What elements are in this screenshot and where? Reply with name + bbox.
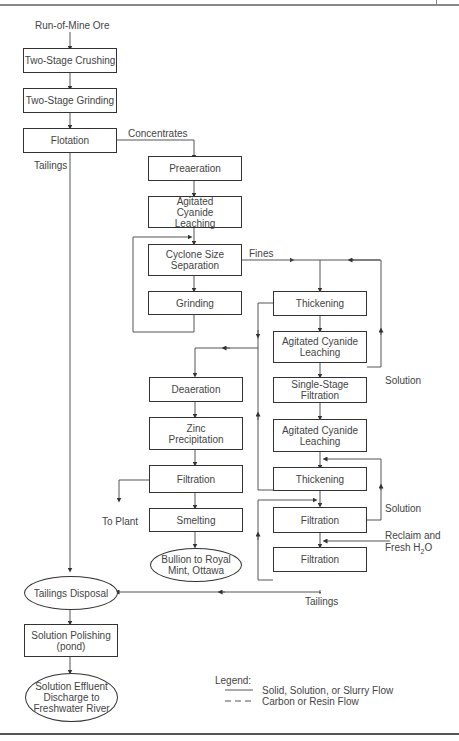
node-preaeration: Preaeration [148, 156, 242, 181]
node-label: Preaeration [169, 163, 221, 174]
node-label: Agitated Cyanide Leaching [160, 196, 230, 229]
node-filtration-c: Filtration [149, 465, 243, 493]
node-flotation: Flotation [23, 128, 117, 153]
node-label: Agitated Cyanide Leaching [280, 425, 360, 447]
edge-label-to-plant: To Plant [102, 516, 138, 527]
node-label: Filtration [301, 554, 339, 565]
node-tailings-disposal: Tailings Disposal [24, 576, 118, 610]
node-label: Deaeration [172, 384, 221, 395]
legend-dashed-flow: Carbon or Resin Flow [262, 696, 359, 707]
node-deaeration: Deaeration [149, 377, 243, 402]
node-agitated-cyanide-leaching-2: Agitated Cyanide Leaching [273, 331, 367, 363]
edge-label-concentrates: Concentrates [128, 128, 187, 139]
edge-label-tailings-final: Tailings [305, 596, 338, 607]
node-grinding: Grinding [148, 291, 242, 315]
node-label: Thickening [296, 474, 344, 485]
node-label: Cyclone Size Separation [165, 249, 225, 271]
node-label: Smelting [177, 515, 216, 526]
node-agitated-cyanide-leaching-1: Agitated Cyanide Leaching [148, 196, 242, 228]
node-agitated-cyanide-leaching-3: Agitated Cyanide Leaching [273, 419, 367, 452]
node-label: Zinc Precipitation [166, 423, 226, 445]
node-label: Grinding [176, 298, 214, 309]
node-two-stage-crushing: Two-Stage Crushing [23, 48, 117, 73]
node-label: Thickening [296, 298, 344, 309]
legend-title: Legend: [215, 675, 251, 686]
node-bullion-to-royal-mint: Bullion to Royal Mint, Ottawa [150, 548, 242, 582]
node-solution-effluent-discharge: Solution Effluent Discharge to Freshwate… [25, 673, 118, 722]
node-cyclone-size-separation: Cyclone Size Separation [148, 244, 242, 276]
node-zinc-precipitation: Zinc Precipitation [149, 417, 243, 450]
node-label: Agitated Cyanide Leaching [280, 336, 360, 358]
reclaim-o: O [424, 542, 432, 553]
node-label: Two-Stage Grinding [26, 95, 114, 106]
node-solution-polishing: Solution Polishing (pond) [24, 624, 118, 657]
node-label: Flotation [51, 135, 89, 146]
edge-label-solution-2: Solution [385, 503, 421, 514]
node-smelting: Smelting [149, 508, 243, 532]
reclaim-line-2: Fresh H2O [385, 542, 441, 553]
input-label-run-of-mine-ore: Run-of-Mine Ore [35, 20, 109, 31]
edge-label-solution-1: Solution [385, 375, 421, 386]
node-label: Two-Stage Crushing [25, 55, 116, 66]
page-bottom-rule [0, 733, 459, 735]
reclaim-line-1: Reclaim and [385, 530, 441, 541]
legend-solid-flow: Solid, Solution, or Slurry Flow [262, 685, 393, 696]
node-label: Single-Stage Filtration [274, 379, 366, 401]
node-filtration-b: Filtration [273, 547, 367, 572]
node-label: Bullion to Royal Mint, Ottawa [161, 554, 231, 576]
node-single-stage-filtration: Single-Stage Filtration [273, 377, 367, 403]
node-label: Filtration [177, 474, 215, 485]
node-label: Filtration [301, 515, 339, 526]
edge-label-reclaim-water: Reclaim and Fresh H2O [385, 530, 441, 553]
node-label: Solution Effluent Discharge to Freshwate… [33, 681, 111, 714]
node-label: Solution Polishing (pond) [31, 630, 111, 652]
reclaim-fresh-h: Fresh H [385, 542, 421, 553]
edge-label-fines: Fines [249, 248, 273, 259]
node-label: Tailings Disposal [34, 588, 108, 599]
node-two-stage-grinding: Two-Stage Grinding [23, 88, 117, 113]
node-thickening-2: Thickening [273, 467, 367, 491]
node-thickening-1: Thickening [273, 291, 367, 316]
node-filtration-a: Filtration [273, 507, 367, 533]
edge-label-tailings-flotation: Tailings [34, 160, 67, 171]
